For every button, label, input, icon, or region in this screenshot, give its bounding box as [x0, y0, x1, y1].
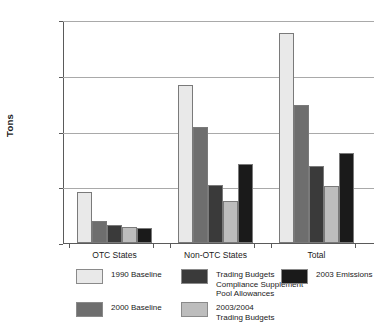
bar-cluster [279, 21, 354, 243]
bar-cluster [77, 21, 152, 243]
y-tick-mark [59, 133, 63, 134]
bar [208, 185, 223, 243]
y-tick-mark [59, 21, 63, 22]
x-tick-mark [254, 244, 255, 248]
bar [92, 221, 107, 243]
bar [77, 192, 92, 243]
legend-label: 2000 Baseline [111, 302, 162, 313]
bar [193, 127, 208, 243]
legend-item[interactable]: 2000 Baseline [76, 302, 162, 317]
bar [178, 85, 193, 243]
bar [107, 225, 122, 243]
x-tick-mark [69, 244, 70, 248]
x-tick-label: OTC States [70, 250, 160, 260]
bar [122, 227, 137, 243]
legend-item[interactable]: 2003 Emissions [281, 269, 372, 284]
plot-area: 2,000,0001,500,0001,000,000500,0000 OTC … [63, 21, 374, 244]
legend-item[interactable]: 1990 Baseline [76, 269, 162, 284]
x-axis-line [63, 243, 374, 244]
x-tick-mark [153, 244, 154, 248]
bar [137, 228, 152, 243]
x-tick-label: Total [272, 250, 362, 260]
bar [309, 166, 324, 243]
x-tick-mark [355, 244, 356, 248]
bar-chart: Tons 2,000,0001,500,0001,000,000500,0000… [0, 0, 385, 329]
bar [294, 105, 309, 243]
bar [238, 164, 253, 243]
x-tick-label: Non-OTC States [171, 250, 261, 260]
legend-swatch [76, 302, 103, 317]
legend-item[interactable]: 2003/2004 Trading Budgets [181, 302, 274, 322]
bar [324, 186, 339, 243]
chart-legend: 1990 Baseline2000 BaselineTrading Budget… [76, 269, 376, 327]
legend-label: 2003/2004 Trading Budgets [216, 302, 274, 322]
legend-swatch [281, 269, 308, 284]
y-tick-mark [59, 77, 63, 78]
legend-swatch [181, 302, 208, 317]
legend-swatch [181, 269, 208, 284]
plot-frame: 2,000,0001,500,0001,000,000500,0000 OTC … [63, 21, 374, 244]
legend-swatch [76, 269, 103, 284]
x-tick-mark [170, 244, 171, 248]
x-tick-mark [271, 244, 272, 248]
bar [279, 33, 294, 243]
y-tick-mark [59, 244, 63, 245]
y-tick-mark [59, 188, 63, 189]
bar [339, 153, 354, 243]
y-axis-title: Tons [4, 103, 15, 149]
bar [223, 201, 238, 243]
bar-cluster [178, 21, 253, 243]
legend-label: 2003 Emissions [316, 269, 372, 280]
legend-label: 1990 Baseline [111, 269, 162, 280]
